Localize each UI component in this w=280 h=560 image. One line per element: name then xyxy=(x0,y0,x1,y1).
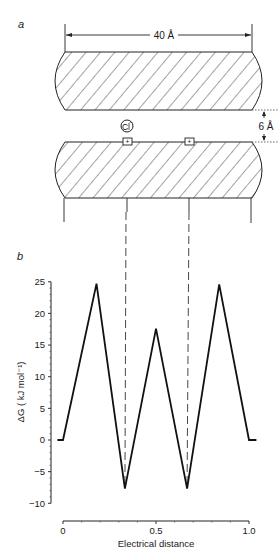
y-tick-label: 20 xyxy=(34,308,45,319)
binding-site-2: + xyxy=(185,138,194,145)
ion-charge: − xyxy=(129,119,133,125)
y-tick-label: 0 xyxy=(40,434,45,445)
binding-site-1: + xyxy=(123,138,132,145)
site-dashed-line xyxy=(187,212,189,486)
y-axis: 2520151050−5−10 xyxy=(29,276,51,509)
chloride-ion: Cl − xyxy=(121,119,133,132)
arrow-left-icon xyxy=(66,33,72,37)
panel-a-label: a xyxy=(18,18,24,30)
x-tick-label: 0.5 xyxy=(149,525,162,536)
x-axis-title: Electrical distance xyxy=(118,538,195,549)
y-tick-label: 15 xyxy=(34,339,45,350)
top-membrane-slab xyxy=(55,52,262,110)
arrow-down-icon xyxy=(262,136,266,141)
x-tick-label: 1.0 xyxy=(242,525,255,536)
gap-dimension-label: 6 Å xyxy=(258,120,273,132)
energy-profile-line xyxy=(57,284,256,489)
panel-a: a 40 Å 6 Å Cl − xyxy=(18,18,279,223)
y-tick-label: −5 xyxy=(34,466,45,477)
y-tick-label: 10 xyxy=(34,371,45,382)
x-tick-label: 0 xyxy=(60,525,65,536)
site-dashed-line xyxy=(125,212,126,486)
y-tick-label: −10 xyxy=(29,498,45,509)
y-tick-label: 5 xyxy=(40,403,45,414)
arrow-right-icon xyxy=(245,33,251,37)
gap-dimension: 6 Å xyxy=(252,110,279,142)
panel-b-label: b xyxy=(17,250,23,262)
x-axis: 00.51.0 xyxy=(60,521,255,536)
plus-icon: + xyxy=(188,138,192,145)
arrow-up-icon xyxy=(262,111,266,116)
panel-b: b 2520151050−5−10 00.51.0 ΔG ( kJ mol⁻¹)… xyxy=(15,212,256,549)
bottom-membrane-slab xyxy=(55,142,262,198)
plus-icon: + xyxy=(126,138,130,145)
figure: a 40 Å 6 Å Cl − xyxy=(0,0,280,560)
y-axis-title: ΔG ( kJ mol⁻¹) xyxy=(15,362,26,423)
width-dimension: 40 Å xyxy=(65,24,252,52)
y-tick-label: 25 xyxy=(34,276,45,287)
width-dimension-label: 40 Å xyxy=(154,29,175,41)
